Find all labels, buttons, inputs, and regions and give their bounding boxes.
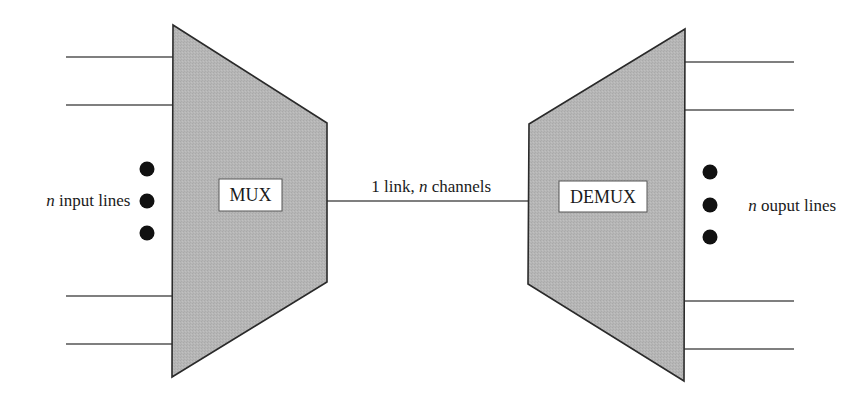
mux-block: MUX — [172, 25, 327, 377]
input-lines-text: input lines — [55, 191, 131, 210]
input-lines-var: n — [46, 191, 55, 210]
output-dot-2 — [703, 198, 718, 213]
input-dot-3 — [140, 226, 155, 241]
link-label-prefix: 1 link, — [371, 177, 419, 196]
mux-label: MUX — [229, 185, 271, 205]
demux-block: DEMUX — [528, 29, 685, 381]
input-dot-1 — [140, 162, 155, 177]
demux-label: DEMUX — [570, 187, 636, 207]
input-lines-label: n input lines — [25, 191, 143, 210]
multiplexing-diagram: MUX DEMUX 1 link, n channels n input lin… — [0, 0, 861, 400]
output-lines-text: ouput lines — [757, 196, 836, 215]
output-lines-var: n — [748, 196, 757, 215]
output-ellipsis-dots — [703, 165, 718, 245]
output-lines-label: n ouput lines — [727, 196, 849, 215]
link-label: 1 link, n channels — [350, 177, 504, 196]
output-dot-3 — [703, 230, 718, 245]
link-label-var: n — [419, 177, 428, 196]
output-dot-1 — [703, 165, 718, 180]
link-label-suffix: channels — [427, 177, 491, 196]
